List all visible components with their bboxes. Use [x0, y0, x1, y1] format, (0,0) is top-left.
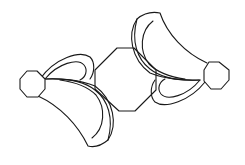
right-octagon	[204, 62, 229, 89]
right-upper-crescent-inner	[142, 21, 185, 79]
left-lower-crescent-inner	[60, 80, 103, 138]
left-lower-crescent-outer	[38, 79, 113, 147]
right-lower-crescent-inner	[159, 79, 200, 97]
left-octagon	[20, 71, 45, 97]
right-upper-crescent-outer	[132, 12, 207, 80]
left-lower-crescent-seam	[46, 79, 110, 140]
molecular-line-drawing	[0, 0, 245, 165]
center-octagon	[95, 48, 156, 111]
diagram-canvas	[0, 0, 245, 165]
left-upper-crescent-inner	[45, 62, 86, 80]
